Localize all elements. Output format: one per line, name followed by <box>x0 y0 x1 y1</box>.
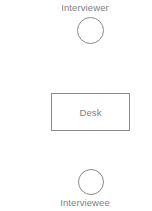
interviewer-person-icon <box>77 17 104 44</box>
desk-shape: Desk <box>51 93 130 131</box>
interviewee-label: Interviewee <box>9 197 152 208</box>
desk-label: Desk <box>79 107 101 118</box>
interview-room-diagram: Interviewer Desk Interviewee <box>0 0 152 211</box>
interviewee-person-icon <box>78 169 104 195</box>
interviewer-label: Interviewer <box>9 2 152 13</box>
